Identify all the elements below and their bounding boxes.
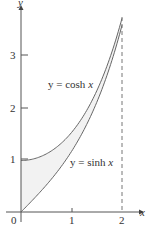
x-tick-label-2: 2 [119, 214, 125, 226]
y-tick-label-3: 3 [10, 49, 16, 61]
chart-canvas: 0 1 2 1 2 3 x y y = cosh x y = sinh x [0, 0, 146, 227]
sinh-label: y = sinh x [70, 156, 113, 168]
x-tick-label-1: 1 [69, 214, 75, 226]
origin-label: 0 [11, 214, 17, 226]
y-axis-label: y [17, 0, 23, 8]
shaded-region [21, 18, 122, 212]
y-tick-label-1: 1 [10, 153, 16, 165]
y-tick-label-2: 2 [10, 102, 16, 114]
x-axis-label: x [139, 206, 145, 218]
cosh-label: y = cosh x [48, 78, 93, 90]
